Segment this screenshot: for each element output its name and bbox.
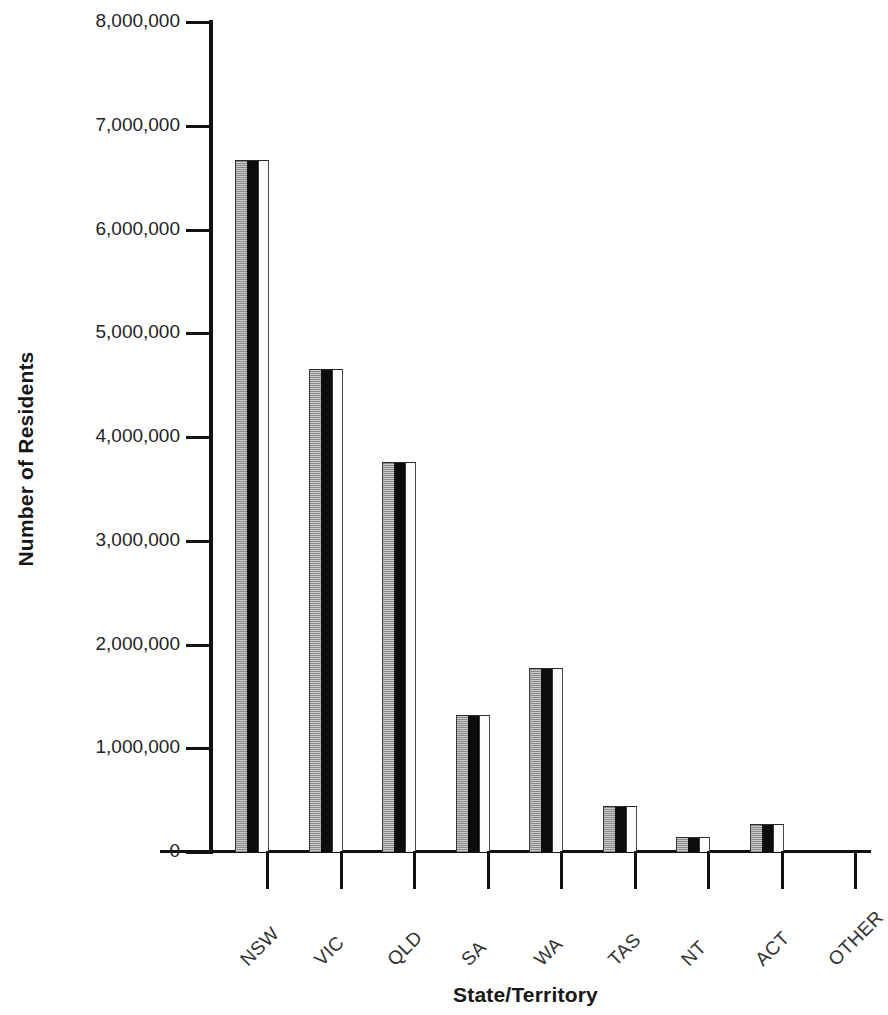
- x-axis-label-vic: VIC: [310, 932, 349, 971]
- y-axis-tick: [186, 436, 211, 439]
- bar-act: [750, 824, 784, 852]
- x-axis-label-tas: TAS: [604, 929, 646, 971]
- y-axis-tick: [186, 540, 211, 543]
- bar-front-face: [688, 838, 699, 852]
- bar-front-face: [468, 716, 479, 852]
- y-axis-tick-label-wrap: 2,000,000: [0, 633, 180, 655]
- y-axis-tick-label: 0: [8, 840, 180, 862]
- y-axis-tick: [186, 229, 211, 232]
- x-axis-tick: [634, 851, 637, 889]
- y-axis-tick: [186, 644, 211, 647]
- x-axis-label-sa: SA: [457, 937, 491, 971]
- bar-wa: [529, 668, 563, 852]
- bar-highlight-edge: [258, 161, 269, 852]
- y-axis-tick-label-wrap: 6,000,000: [0, 218, 180, 240]
- bar-highlight-edge: [332, 370, 343, 852]
- y-axis-tick-label-wrap: 1,000,000: [0, 736, 180, 758]
- bar-side-face: [382, 463, 394, 852]
- bar-side-face: [529, 669, 541, 852]
- y-axis-tick-label-wrap: 5,000,000: [0, 321, 180, 343]
- y-axis-tick-label: 1,000,000: [8, 736, 180, 758]
- bar-highlight-edge: [773, 825, 784, 852]
- x-axis-tick: [781, 851, 784, 889]
- bar-front-face: [541, 669, 552, 852]
- bar-front-face: [615, 807, 626, 852]
- y-axis-tick-label: 6,000,000: [8, 218, 180, 240]
- bar-front-face: [762, 825, 773, 852]
- x-axis-tick: [854, 851, 857, 889]
- bar-front-face: [247, 161, 258, 852]
- x-axis-tick: [340, 851, 343, 889]
- x-axis-tick: [560, 851, 563, 889]
- x-axis-label-qld: QLD: [383, 927, 427, 971]
- bar-sa: [456, 715, 490, 852]
- x-axis-title: State/Territory: [180, 983, 871, 1007]
- y-axis-tick: [186, 21, 211, 24]
- y-axis-tick-label: 7,000,000: [8, 114, 180, 136]
- x-axis-tick: [707, 851, 710, 889]
- bar-side-face: [750, 825, 762, 852]
- bar-highlight-edge: [552, 669, 563, 852]
- x-axis-tick: [413, 851, 416, 889]
- bar-highlight-edge: [626, 807, 637, 852]
- x-axis-label-other: OTHER: [824, 907, 888, 971]
- bar-highlight-edge: [699, 838, 710, 852]
- x-axis-label-nt: NT: [677, 937, 711, 971]
- bar-side-face: [603, 807, 615, 852]
- y-axis-tick-label: 4,000,000: [8, 425, 180, 447]
- x-axis-tick: [487, 851, 490, 889]
- y-axis-tick-label: 2,000,000: [8, 633, 180, 655]
- y-axis-line: [209, 20, 213, 854]
- bar-side-face: [456, 716, 468, 852]
- bar-front-face: [321, 370, 332, 852]
- y-axis-tick-label-wrap: 3,000,000: [0, 529, 180, 551]
- y-axis-tick-label-wrap: 0: [0, 840, 180, 862]
- y-axis-tick: [186, 125, 211, 128]
- bar-tas: [603, 806, 637, 852]
- x-axis-label-nsw: NSW: [236, 923, 284, 971]
- bar-nt: [676, 837, 710, 852]
- bar-qld: [382, 462, 416, 852]
- y-axis-tick-label-wrap: 4,000,000: [0, 425, 180, 447]
- bar-nsw: [235, 160, 269, 852]
- x-axis-label-act: ACT: [751, 927, 794, 970]
- y-axis-tick-label: 8,000,000: [8, 10, 180, 32]
- bar-highlight-edge: [479, 716, 490, 852]
- y-axis-tick: [186, 747, 211, 750]
- bar-vic: [309, 369, 343, 852]
- bar-side-face: [309, 370, 321, 852]
- y-axis-tick: [186, 332, 211, 335]
- x-axis-label-wa: WA: [530, 933, 567, 970]
- bar-side-face: [676, 838, 688, 852]
- bar-side-face: [235, 161, 247, 852]
- y-axis-tick-label: 5,000,000: [8, 321, 180, 343]
- bar-highlight-edge: [405, 463, 416, 852]
- y-axis-tick-label-wrap: 7,000,000: [0, 114, 180, 136]
- x-axis-tick: [266, 851, 269, 889]
- bar-front-face: [394, 463, 405, 852]
- y-axis-tick-label-wrap: 8,000,000: [0, 10, 180, 32]
- y-axis-tick-label: 3,000,000: [8, 529, 180, 551]
